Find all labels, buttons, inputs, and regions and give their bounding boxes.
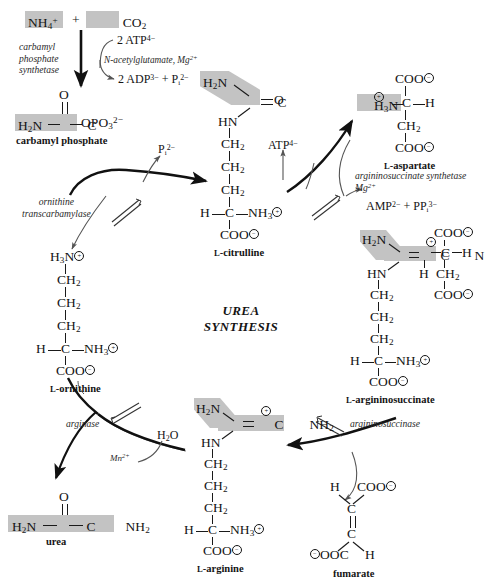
argsucc-atom-coo: COO−: [369, 375, 408, 389]
figure-title-line-2: SYNTHESIS: [186, 319, 296, 335]
asp-bond-n-c: [392, 104, 403, 105]
argsucc-atom-h-side: H: [462, 246, 472, 260]
equilibrium-marker-left: [112, 200, 139, 222]
asp-bond-c-h: [413, 104, 425, 105]
urea-atom-nh2: NH2: [126, 519, 150, 534]
arginine-name: L-arginine: [197, 563, 244, 574]
asp-atom-h: H: [425, 96, 435, 110]
urea-bond-c-o: [62, 504, 68, 515]
cofactor-nag-mg: N-acetylglutamate, Mg2+: [104, 54, 198, 66]
cit-atom-ch2-2: CH2: [221, 160, 245, 175]
fum-atom-c-top: C: [347, 502, 356, 516]
argsucc-bond-c-hn: [386, 258, 401, 269]
arg-atom-ch2-2: CH2: [204, 479, 228, 494]
argsucc-atom-c: C: [440, 248, 449, 263]
arg-atom-ch2-1: CH2: [204, 457, 228, 472]
fumarate-name: fumarate: [333, 568, 374, 579]
cit-atom-ch2-1: CH2: [221, 137, 245, 152]
fum-atom-ooc: −OOC: [310, 548, 349, 562]
cp-bond-c-o: [62, 102, 68, 114]
arg-atom-h: H: [184, 523, 194, 537]
otc-line-2: transcarbamylase: [22, 208, 91, 220]
cps-line-1: carbamyl: [19, 41, 59, 53]
ass-line-1: argininosuccinate synthetase: [355, 170, 466, 182]
arg-atom-nh2: NH2: [310, 417, 334, 432]
asp-atom-coo-bot: COO−: [395, 141, 434, 155]
asp-atom-c: C: [402, 96, 411, 110]
argsucc-atom-ch2-2: CH2: [370, 310, 394, 325]
reactants-row: NH4+ + CO2: [28, 12, 85, 30]
enzyme-arginase: arginase: [66, 418, 99, 430]
argsucc-atom-h-under-n: H: [419, 267, 429, 281]
arg-atom-c: C: [274, 417, 283, 432]
cit-atom-h: H: [200, 206, 210, 220]
asp-atom-coo-top: COO−: [395, 72, 434, 86]
arg-bond-h-ca: [196, 531, 208, 532]
cit-atom-calpha: C: [225, 206, 234, 220]
argsucc-atom-coo-top: COO−: [434, 226, 473, 240]
cp-atom-c: C: [87, 118, 96, 133]
argsucc-bond-n-c: [388, 240, 402, 251]
asp-atom-ch2: CH2: [397, 119, 421, 134]
arrow-pi-out: [143, 156, 160, 182]
argsucc-bond-h-ca: [362, 362, 374, 363]
cit-atom-coo: COO−: [220, 228, 259, 242]
arrow-otc: [70, 170, 206, 195]
argsucc-atom-h2n: H2N: [362, 232, 386, 247]
ornithine-name: L-ornithine: [50, 383, 101, 394]
arg-atom-coo: COO−: [203, 544, 242, 558]
urea-bond-n-c: [43, 525, 57, 526]
cofactor-amp-ppi: AMP2− + PPi3−: [366, 199, 437, 214]
figure-title: UREA SYNTHESIS: [186, 303, 296, 336]
orn-atom-ch2-3: CH2: [57, 319, 81, 334]
argsucc-bond-ca-nh3: [385, 362, 396, 363]
structure-urea: O H2N C NH2 urea: [6, 490, 72, 508]
argsucc-atom-ch2-3: CH2: [370, 332, 394, 347]
cofactor-water: H2O: [157, 428, 178, 443]
structure-argininosuccinate: H2N + C N H COO− C H CH2 COO− HN CH2 CH2…: [358, 228, 423, 246]
enzyme-ornithine-transcarbamylase: ornithine transcarbamylase: [22, 196, 91, 219]
carbon-dioxide-label: CO2: [123, 15, 147, 30]
cit-atom-h2n: H2N: [203, 75, 227, 90]
structure-citrulline: H2N C O HN CH2 CH2 CH2 H C NH3+ COO− L-c…: [196, 70, 234, 88]
arg-atom-calpha: C: [208, 523, 217, 537]
arg-bond-c-hn: [220, 427, 235, 438]
cit-atom-hn: HN: [218, 115, 238, 129]
argsucc-atom-ch2-1: CH2: [370, 288, 394, 303]
enzyme-carbamyl-phosphate-synthetase: carbamyl phosphate synthetase: [19, 41, 59, 76]
fum-atom-h-bot: H: [365, 548, 375, 562]
argsucc-bond-cside-h: [452, 252, 462, 253]
figure-title-line-1: UREA: [186, 303, 296, 319]
arg-bond-n-c: [222, 409, 236, 420]
arginine-name-main: -arginine: [203, 563, 244, 574]
co2-highlight: [86, 11, 119, 28]
argsucc-bond-c-n: [409, 252, 419, 258]
enzyme-argininosuccinase: argininosuccinase: [350, 418, 420, 430]
cp-bond-n-c: [48, 124, 60, 125]
plus-sign: +: [72, 13, 80, 27]
cofactor-2-atp: 2 ATP4−: [117, 33, 155, 48]
carbamyl-phosphate-name: carbamyl phosphate: [16, 135, 107, 146]
orn-atom-ch2-1: CH2: [57, 273, 81, 288]
citrulline-name: L-citrulline: [214, 247, 264, 258]
ammonium-label: NH4+: [28, 15, 58, 30]
argsucc-atom-calpha: C: [374, 354, 383, 368]
orn-bond-h-ca: [48, 350, 61, 351]
cofactor-atp-ass: ATP4−: [268, 138, 298, 153]
structure-carbamyl-phosphate: O H2N C OPO32− carbamyl phosphate: [10, 88, 48, 106]
argsucc-charge-plus: +: [426, 232, 436, 247]
structure-aspartate: COO− + H3N C H CH2 COO− L-aspartate: [358, 72, 396, 90]
argsucc-atom-ch2-side: CH2: [436, 267, 460, 282]
orn-atom-coo: COO−: [56, 364, 95, 378]
arg-bond-c-nh2: [243, 421, 254, 427]
fum-bond-c-h-bot: [352, 539, 366, 551]
cit-bond-c-o: [261, 99, 273, 105]
arg-atom-nh3: NH3+: [230, 523, 264, 538]
arg-bond-ca-nh3: [219, 531, 230, 532]
arg-charge-plus: +: [261, 401, 271, 416]
orn-bond-ca-nh3: [72, 350, 84, 351]
cp-atom-h2n: H2N: [18, 118, 42, 133]
cit-bond-ca-nh3: [236, 214, 248, 215]
orn-atom-h3n: H3N+: [50, 250, 84, 265]
cit-bond-h-ca: [212, 214, 225, 215]
